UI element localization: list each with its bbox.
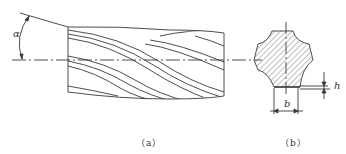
shank-top-edge <box>68 27 224 33</box>
b-arrow-left <box>274 109 278 113</box>
angle-arc <box>19 16 29 59</box>
flute-depth-label: h <box>334 80 340 91</box>
flute-width-label: b <box>284 98 290 109</box>
arrow-head-bottom <box>20 54 23 59</box>
view-b-caption: （b） <box>280 136 307 149</box>
helical-flutes <box>68 30 224 102</box>
section-profile <box>254 31 313 87</box>
helix-angle-label: α <box>13 28 20 39</box>
view-a-caption: （a） <box>136 136 162 149</box>
h-arrow-down <box>322 82 326 86</box>
h-arrow-up <box>322 89 326 93</box>
view-a-side-view <box>12 13 262 102</box>
arrow-head-top <box>25 16 29 21</box>
view-b-cross-section <box>254 22 330 114</box>
b-arrow-right <box>294 109 298 113</box>
technical-drawing <box>0 0 346 154</box>
